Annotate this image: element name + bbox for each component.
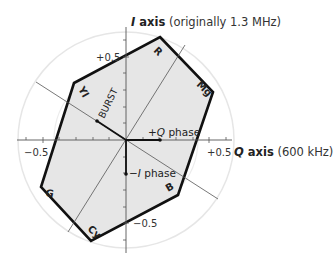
q-axis-title: Q axis (600 kHz) [234, 145, 333, 159]
i-axis-title: I axis (originally 1.3 MHz) [131, 15, 281, 29]
i-neg-tick-label: −0.5 [133, 218, 157, 229]
q-neg-tick-label: −0.5 [24, 147, 48, 158]
minus-i-dot [124, 172, 128, 176]
plus-q-dot [158, 138, 162, 142]
q-pos-tick-label: +0.5 [207, 147, 231, 158]
burst-dot [95, 119, 99, 123]
iq-color-diagram: I axis (originally 1.3 MHz) Q axis (600 … [0, 0, 335, 257]
minus-i-phase-label: −I phase [129, 167, 176, 179]
i-pos-tick-label: +0.5 [96, 52, 120, 63]
plus-q-phase-label: +Q phase [148, 126, 200, 138]
color-hexagon [41, 37, 213, 241]
